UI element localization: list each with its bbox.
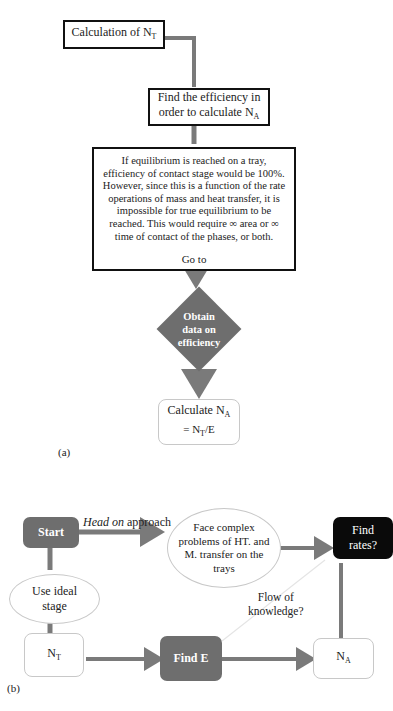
nt-text: NT	[47, 646, 61, 665]
calculate-na-line1: Calculate NA	[168, 403, 231, 422]
nt-box: NT	[24, 633, 84, 677]
face-complex-ellipse: Face complex problems of HT. and M. tran…	[167, 508, 281, 588]
na-text: NA	[336, 649, 350, 668]
flow-of-knowledge-label: Flow of knowledge?	[248, 591, 304, 618]
equilibrium-text: If equilibrium is reached on a tray, eff…	[100, 155, 288, 243]
start-box: Start	[23, 517, 79, 548]
find-rates-box: Find rates?	[333, 517, 393, 559]
calculation-nt-text: Calculation of NT	[72, 25, 157, 44]
find-e-text: Find E	[173, 651, 208, 666]
use-ideal-line2: stage	[42, 599, 67, 614]
go-to-label: Go to	[182, 252, 207, 267]
calculate-na-box: Calculate NA = NT/E	[158, 399, 240, 445]
find-efficiency-line2: order to calculate NA	[159, 105, 260, 124]
equilibrium-box: If equilibrium is reached on a tray, eff…	[92, 147, 296, 271]
head-on-approach-label: Head on approach	[83, 515, 171, 530]
find-efficiency-line1: Find the efficiency in	[158, 90, 261, 105]
find-efficiency-box: Find the efficiency in order to calculat…	[148, 88, 270, 126]
find-e-box: Find E	[160, 636, 222, 681]
figure-label-b: (b)	[7, 682, 20, 694]
diamond-line1: Obtain	[183, 310, 215, 323]
use-ideal-stage-ellipse: Use ideal stage	[9, 574, 100, 624]
calculate-na-line2: = NT/E	[183, 422, 215, 441]
face-complex-text: Face complex problems of HT. and M. tran…	[178, 521, 270, 575]
figure-label-a: (a)	[58, 446, 70, 458]
diamond-line2: data on	[182, 323, 216, 336]
find-rates-line2: rates?	[349, 538, 377, 553]
use-ideal-line1: Use ideal	[32, 584, 77, 599]
na-box: NA	[313, 638, 374, 679]
calculation-nt-box: Calculation of NT	[63, 20, 165, 49]
start-text: Start	[38, 525, 64, 540]
find-rates-line1: Find	[352, 523, 374, 538]
diamond-line3: efficiency	[178, 336, 221, 349]
obtain-data-diamond: Obtain data on efficiency	[157, 287, 241, 371]
